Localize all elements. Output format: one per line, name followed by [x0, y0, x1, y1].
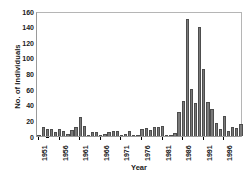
y-axis-tick-labels: 020406080100120140160 [13, 9, 34, 137]
bar-1971 [120, 135, 123, 136]
bar-1957 [62, 131, 65, 136]
x-axis-tick-labels: 1951195619611966197119761981198619911996 [36, 141, 242, 163]
y-tick-label: 80 [26, 71, 34, 78]
bar-1961 [79, 117, 82, 136]
bar-1984 [173, 133, 176, 136]
plot-area [36, 12, 242, 137]
bar-1955 [54, 132, 57, 136]
x-tick-label: 1961 [82, 145, 90, 161]
x-tick-mark [120, 137, 121, 140]
bar-1974 [132, 135, 135, 136]
x-tick-mark [100, 137, 101, 140]
x-tick-label: 1991 [206, 145, 214, 161]
bar-1988 [190, 89, 193, 136]
x-axis-title: Year [36, 163, 242, 172]
y-tick-label: 160 [22, 9, 34, 16]
bar-1993 [210, 109, 213, 136]
x-tick-label: 1996 [226, 145, 234, 161]
bar-1951 [37, 135, 40, 136]
bar-1986 [182, 101, 185, 136]
bar-1968 [107, 132, 110, 136]
x-tick-mark [141, 137, 142, 140]
x-tick-label: 1971 [123, 145, 131, 161]
bar-1994 [215, 123, 218, 136]
bar-1991 [202, 69, 205, 136]
bar-1970 [116, 131, 119, 136]
bar-1952 [42, 127, 45, 136]
bar-1969 [112, 131, 115, 136]
bar-1998 [231, 127, 234, 136]
x-tick-label: 1956 [62, 145, 70, 161]
x-tick-mark [79, 137, 80, 140]
bar-2000 [239, 124, 242, 136]
x-tick-label: 1986 [185, 145, 193, 161]
x-tick-mark [223, 137, 224, 140]
x-tick-mark [203, 137, 204, 140]
x-tick-label: 1976 [144, 145, 152, 161]
bar-1953 [46, 129, 49, 136]
bar-1985 [177, 112, 180, 136]
bar-1982 [165, 135, 168, 136]
bar-1962 [83, 126, 86, 136]
bar-1992 [206, 102, 209, 136]
bar-1967 [103, 134, 106, 136]
bar-1966 [99, 135, 102, 136]
bar-1972 [124, 134, 127, 136]
bar-1977 [145, 128, 148, 136]
bar-1978 [149, 130, 152, 136]
bar-1995 [219, 129, 222, 136]
bar-1996 [223, 116, 226, 136]
bar-1987 [186, 19, 189, 136]
bar-1990 [198, 27, 201, 136]
y-tick-label: 60 [26, 87, 34, 94]
bar-1959 [70, 130, 73, 136]
bar-1997 [227, 131, 230, 136]
bar-1960 [74, 127, 77, 136]
histogram-chart: No. of Individuals 020406080100120140160… [0, 0, 249, 177]
bar-1980 [157, 127, 160, 136]
bar-1999 [235, 128, 238, 136]
bar-1979 [153, 127, 156, 136]
bar-1989 [194, 103, 197, 136]
bar-1956 [58, 129, 61, 136]
x-tick-mark [38, 137, 39, 140]
x-tick-mark [162, 137, 163, 140]
bars-layer [37, 13, 241, 136]
bar-1963 [87, 135, 90, 136]
bar-1965 [95, 132, 98, 136]
bar-1981 [161, 126, 164, 136]
x-tick-mark [59, 137, 60, 140]
bar-1976 [140, 129, 143, 136]
bar-1975 [136, 135, 139, 136]
x-tick-label: 1951 [41, 145, 49, 161]
x-tick-mark [182, 137, 183, 140]
bar-1983 [169, 135, 172, 136]
bar-1958 [66, 134, 69, 136]
y-tick-label: 100 [22, 55, 34, 62]
x-tick-label: 1966 [103, 145, 111, 161]
y-tick-label: 20 [26, 118, 34, 125]
y-tick-label: 140 [22, 24, 34, 31]
bar-1964 [91, 132, 94, 136]
y-tick-label: 0 [30, 134, 34, 141]
bar-1954 [50, 129, 53, 136]
x-tick-label: 1981 [165, 145, 173, 161]
y-tick-label: 40 [26, 102, 34, 109]
y-tick-label: 120 [22, 40, 34, 47]
bar-1973 [128, 131, 131, 136]
